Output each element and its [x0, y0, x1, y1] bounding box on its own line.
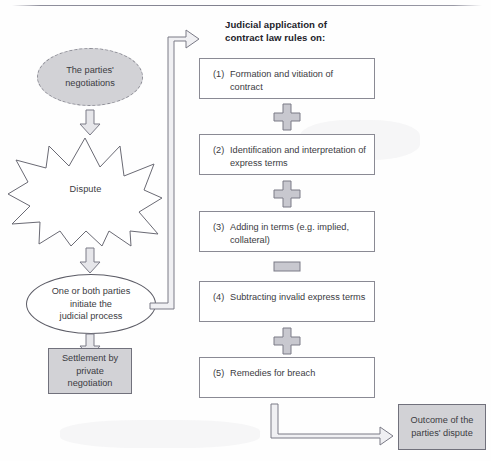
node-parties-negotiations[interactable]: The parties' negotiations	[37, 48, 143, 106]
node-settlement-private-negotiation[interactable]: Settlement by private negotiation	[48, 348, 132, 394]
flowchart-diagram: Judicial application of contract law rul…	[0, 0, 491, 461]
page-title: Judicial application of contract law rul…	[225, 18, 425, 44]
rule-box-2-content: (2) Identification and interpretation of…	[213, 144, 366, 169]
operator-minus-1	[274, 262, 300, 272]
rule-box-2-number: (2)	[213, 144, 230, 169]
node-settlement-private-negotiation-label: Settlement by private negotiation	[58, 352, 122, 390]
arrow-rules-to-outcome	[278, 404, 394, 442]
node-initiate-judicial-process[interactable]: One or both parties initiate the judicia…	[26, 274, 156, 334]
rule-box-5-number: (5)	[213, 367, 230, 380]
operator-plus-3	[274, 328, 300, 354]
arrow-down-dispute-to-initiate	[78, 248, 102, 274]
rule-box-4[interactable]: (4) Subtracting invalid express terms	[199, 281, 375, 322]
node-dispute-label: Dispute	[8, 183, 163, 195]
rule-box-4-content: (4) Subtracting invalid express terms	[213, 291, 366, 304]
page-title-line-2: contract law rules on:	[225, 31, 425, 44]
rule-box-4-text: Subtracting invalid express terms	[230, 291, 366, 304]
arrow-down-negotiations-to-dispute	[78, 110, 102, 136]
arrow-initiate-to-judicial-application	[150, 26, 202, 301]
rule-box-1-content: (1) Formation and vitiation of contract	[213, 68, 366, 93]
rule-box-3-content: (3) Adding in terms (e.g. implied, colla…	[213, 221, 366, 246]
rule-box-5-content: (5) Remedies for breach	[213, 367, 366, 380]
rule-box-1-text: Formation and vitiation of contract	[230, 68, 366, 93]
rule-box-2[interactable]: (2) Identification and interpretation of…	[199, 134, 375, 175]
rule-box-4-number: (4)	[213, 291, 230, 304]
rule-box-3[interactable]: (3) Adding in terms (e.g. implied, colla…	[199, 211, 375, 252]
rule-box-1[interactable]: (1) Formation and vitiation of contract	[199, 58, 375, 99]
rule-box-3-text: Adding in terms (e.g. implied, collatera…	[230, 221, 366, 246]
node-outcome[interactable]: Outcome of the parties' dispute	[398, 404, 486, 450]
rule-box-3-number: (3)	[213, 221, 230, 246]
operator-plus-2	[274, 181, 300, 207]
node-initiate-judicial-process-label: One or both parties initiate the judicia…	[48, 285, 135, 323]
node-parties-negotiations-label: The parties' negotiations	[61, 64, 119, 89]
node-outcome-label: Outcome of the parties' dispute	[407, 414, 478, 439]
rule-box-2-text: Identification and interpretation of exp…	[230, 144, 366, 169]
scan-smudge	[60, 420, 260, 448]
scan-line-artifact	[12, 5, 482, 6]
operator-plus-1	[274, 104, 300, 130]
page-title-line-1: Judicial application of	[225, 18, 425, 31]
rule-box-1-number: (1)	[213, 68, 230, 93]
rule-box-5[interactable]: (5) Remedies for breach	[199, 357, 375, 398]
rule-box-5-text: Remedies for breach	[230, 367, 366, 380]
